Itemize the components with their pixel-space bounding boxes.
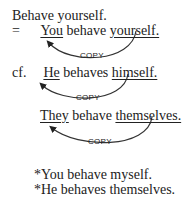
- plural-sentence: They behave themselves.: [40, 108, 181, 124]
- ungrammatical-example-1: *You behave myself.: [34, 167, 152, 183]
- subject-he: He: [43, 65, 59, 80]
- verb: behave: [63, 23, 110, 38]
- reflexive-himself: himself.: [112, 65, 158, 80]
- cf-prefix: cf.: [12, 65, 26, 80]
- copy-label-1: COPY: [80, 51, 104, 60]
- copy-label-2: COPY: [76, 93, 100, 102]
- imperative-sentence: Behave yourself.: [12, 8, 107, 24]
- copy-label-3: COPY: [88, 137, 112, 146]
- ungrammatical-example-2: *He behaves themselves.: [34, 182, 175, 198]
- verb: behave: [69, 108, 116, 123]
- expanded-sentence: = You behave yourself.: [12, 23, 159, 39]
- verb: behaves: [60, 65, 112, 80]
- subject-you: You: [40, 23, 63, 38]
- reflexive-themselves: themselves.: [115, 108, 181, 123]
- equals-sign: =: [12, 23, 20, 38]
- reflexive-yourself: yourself.: [110, 23, 159, 38]
- comparison-sentence: cf. He behaves himself.: [12, 65, 157, 81]
- subject-they: They: [40, 108, 69, 123]
